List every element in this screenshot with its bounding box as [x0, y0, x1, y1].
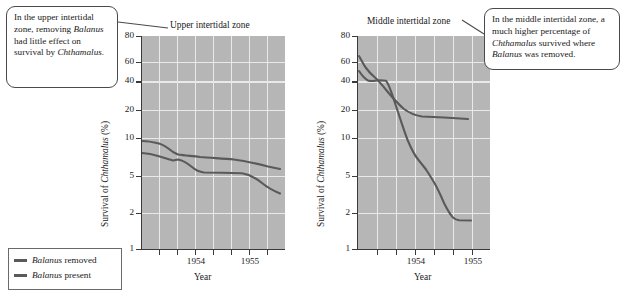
- legend: Balanus removed Balanus present: [8, 248, 122, 290]
- species-balanus: Balanus: [492, 49, 522, 59]
- legend-item-balanus-removed: Balanus removed: [14, 253, 116, 268]
- legend-label-balanus-removed: Balanus removed: [32, 253, 97, 268]
- legend-line-swatch-icon: [14, 274, 27, 276]
- species-chthamalus: Chthamalus: [57, 47, 101, 57]
- legend-item-balanus-present: Balanus present: [14, 268, 116, 283]
- species-chthamalus: Chthamalus: [492, 38, 536, 48]
- callout-upper-zone: In the upper intertidal zone, removing B…: [6, 6, 118, 88]
- callout-middle-zone: In the middle intertidal zone, a much hi…: [484, 8, 620, 70]
- legend-label-balanus-present: Balanus present: [32, 268, 91, 283]
- figure-root: In the upper intertidal zone, removing B…: [0, 0, 623, 301]
- chart-title-middle: Middle intertidal zone: [367, 16, 450, 26]
- legend-line-swatch-icon: [14, 259, 27, 261]
- species-balanus: Balanus: [73, 24, 103, 34]
- chart-title-upper: Upper intertidal zone: [170, 20, 250, 30]
